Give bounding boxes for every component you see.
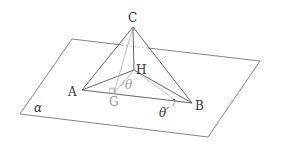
label-H: H bbox=[136, 63, 146, 77]
angle-vertex-dot bbox=[173, 99, 175, 101]
plane-edge-back-left bbox=[72, 39, 122, 45]
segment-AB bbox=[82, 90, 192, 103]
label-A: A bbox=[67, 85, 77, 99]
plane-edge-right bbox=[208, 61, 260, 137]
plane-edge-left bbox=[20, 39, 72, 114]
diagram-canvas: C H A B G θ θ′ α bbox=[0, 0, 283, 147]
plane-edge-back-hidden bbox=[122, 45, 148, 48]
label-theta: θ bbox=[125, 78, 133, 92]
label-G: G bbox=[109, 95, 119, 109]
plane-alpha bbox=[20, 39, 260, 137]
label-C: C bbox=[128, 11, 137, 25]
label-alpha: α bbox=[34, 101, 42, 115]
label-B: B bbox=[195, 99, 204, 113]
plane-edge-back-right bbox=[148, 48, 260, 61]
geometry-diagram: C H A B G θ θ′ α bbox=[0, 0, 283, 147]
label-theta-prime: θ′ bbox=[159, 106, 169, 120]
plane-edge-front bbox=[20, 114, 208, 137]
segment-CH bbox=[133, 27, 134, 70]
